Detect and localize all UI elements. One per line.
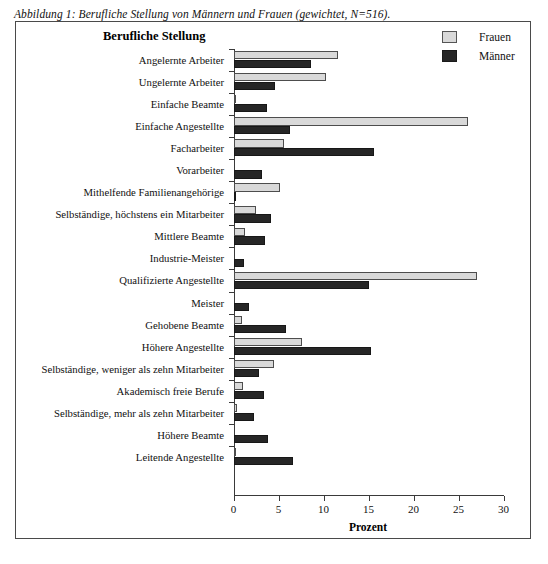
x-axis-tick-label: 25 [453,503,464,515]
x-axis-tick [279,496,280,501]
category-label: Mithelfende Familienangehörige [84,186,224,198]
bar-maenner [234,413,254,421]
category-label: Höhere Beamte [157,429,224,441]
bar-maenner [234,170,262,178]
chart-row: Industrie-Meister [0,247,514,269]
bar-group [234,247,504,269]
chart-row: Selbständige, weniger als zehn Mitarbeit… [0,358,514,380]
category-axis-tick [229,402,234,403]
bar-group [234,336,504,358]
figure-caption: Abbildung 1: Berufliche Stellung von Män… [14,8,390,20]
bar-group [234,93,504,115]
bar-group [234,269,504,291]
category-axis-tick [229,203,234,204]
x-axis-tick-label: 20 [408,503,419,515]
bar-frauen [234,360,274,368]
x-axis-tick-label: 10 [318,503,329,515]
bar-maenner [234,214,271,222]
chart-row: Qualifizierte Angestellte [0,269,514,291]
category-axis-tick [229,93,234,94]
category-axis-tick [229,358,234,359]
bar-frauen [234,448,236,456]
x-axis-tick [324,496,325,501]
bar-frauen [234,117,468,125]
x-axis-tick-label: 0 [231,503,237,515]
category-axis-tick [229,247,234,248]
bar-group [234,203,504,225]
chart-row: Einfache Angestellte [0,115,514,137]
category-label: Industrie-Meister [150,252,224,264]
category-label: Ungelernte Arbeiter [139,76,224,88]
bar-maenner [234,369,259,377]
bar-maenner [234,325,286,333]
category-label: Facharbeiter [171,142,224,154]
chart-row: Facharbeiter [0,137,514,159]
category-axis-tick [229,292,234,293]
category-axis-tick [229,225,234,226]
chart-row: Meister [0,292,514,314]
x-axis-tick [459,496,460,501]
bar-frauen [234,404,237,412]
bar-maenner [234,391,264,399]
chart-row: Angelernte Arbeiter [0,49,514,71]
category-label: Leitende Angestellte [136,451,224,463]
chart-row: Gehobene Beamte [0,314,514,336]
bar-group [234,71,504,93]
category-axis-tick [229,49,234,50]
bar-frauen [234,183,280,191]
category-axis-tick [229,71,234,72]
bar-group [234,292,504,314]
bar-maenner [234,457,293,465]
bar-group [234,380,504,402]
bar-group [234,424,504,446]
x-axis-tick [234,496,235,501]
category-axis-tick [229,336,234,337]
chart-row: Vorarbeiter [0,159,514,181]
x-axis-tick-label: 15 [363,503,374,515]
bar-frauen [234,338,302,346]
bar-group [234,49,504,71]
bar-maenner [234,281,369,289]
category-label: Selbständige, höchstens ein Mitarbeiter [55,208,224,220]
category-axis-tick [229,446,234,447]
category-label: Angelernte Arbeiter [139,54,224,66]
category-label: Mittlere Beamte [154,230,224,242]
category-axis-tick [229,159,234,160]
category-label: Gehobene Beamte [145,319,224,331]
category-axis-tick [229,181,234,182]
chart-plot-area: Angelernte ArbeiterUngelernte ArbeiterEi… [0,49,514,496]
bar-frauen [234,272,477,280]
category-axis-title: Berufliche Stellung [103,29,205,44]
category-label: Qualifizierte Angestellte [119,274,224,286]
bar-group [234,115,504,137]
bar-frauen [234,51,338,59]
bar-group [234,446,504,468]
category-axis-tick [229,424,234,425]
legend-swatch-frauen [442,31,457,43]
bar-group [234,358,504,380]
chart-row: Selbständige, höchstens ein Mitarbeiter [0,203,514,225]
bar-maenner [234,82,275,90]
chart-row: Mithelfende Familienangehörige [0,181,514,203]
bar-group [234,402,504,424]
bar-group [234,159,504,181]
bar-frauen [234,382,243,390]
chart-row: Leitende Angestellte [0,446,514,468]
bar-maenner [234,347,371,355]
bar-group [234,181,504,203]
bar-maenner [234,60,311,68]
bar-maenner [234,126,290,134]
bar-frauen [234,228,245,236]
chart-row: Akademisch freie Berufe [0,380,514,402]
bar-group [234,225,504,247]
category-axis-tick [229,115,234,116]
chart-row: Ungelernte Arbeiter [0,71,514,93]
category-label: Meister [191,297,224,309]
x-axis-tick [504,496,505,501]
category-axis-tick [229,269,234,270]
bar-maenner [234,303,249,311]
category-label: Selbständige, weniger als zehn Mitarbeit… [41,363,224,375]
category-axis-tick [229,380,234,381]
bar-frauen [234,139,284,147]
category-label: Einfache Angestellte [135,120,224,132]
